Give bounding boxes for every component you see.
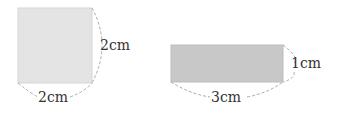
square-height-label: 2cm xyxy=(100,38,130,52)
rectangle-shape xyxy=(171,45,283,82)
square-shape xyxy=(18,8,92,83)
rectangle-width-label: 3cm xyxy=(211,90,241,104)
rectangle-height-label: 1cm xyxy=(291,56,321,70)
square-width-label: 2cm xyxy=(38,90,68,104)
